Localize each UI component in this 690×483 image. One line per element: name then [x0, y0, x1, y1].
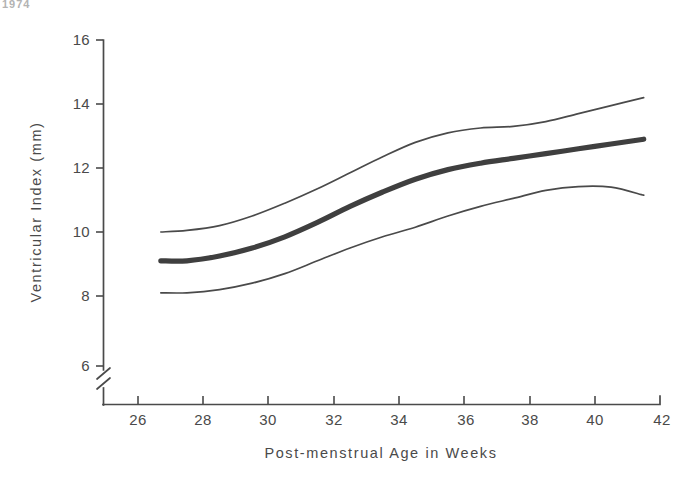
x-tick-label-36: 36 [457, 411, 474, 428]
x-tick-label-30: 30 [259, 411, 276, 428]
y-tick-label-12: 12 [73, 159, 90, 176]
y-axis-break-icon [97, 368, 110, 389]
y-tick-label-14: 14 [73, 95, 90, 112]
lower-limit-curve [161, 186, 644, 293]
x-tick-label-28: 28 [194, 411, 211, 428]
x-tick-label-42: 42 [653, 411, 670, 428]
x-axis-title: Post-menstrual Age in Weeks [264, 445, 497, 461]
x-tick-label-38: 38 [521, 411, 538, 428]
x-tick-label-40: 40 [586, 411, 603, 428]
x-axis-ticks [138, 396, 595, 404]
curve-group [161, 98, 644, 293]
y-axis-ticks [96, 40, 103, 366]
x-tick-label-26: 26 [129, 411, 146, 428]
y-axis-title: Ventricular Index (mm) [28, 121, 44, 302]
upper-limit-curve [161, 98, 644, 232]
y-tick-label-16: 16 [73, 31, 90, 48]
mean-curve [161, 139, 644, 261]
ventricular-index-chart: 16 14 12 10 8 6 26 28 30 32 34 36 38 40 … [0, 0, 690, 483]
x-tick-label-32: 32 [325, 411, 342, 428]
y-tick-label-10: 10 [73, 223, 90, 240]
x-tick-label-34: 34 [390, 411, 407, 428]
y-tick-label-8: 8 [81, 287, 90, 304]
y-tick-label-6: 6 [81, 357, 90, 374]
x-axis-line [103, 396, 660, 405]
